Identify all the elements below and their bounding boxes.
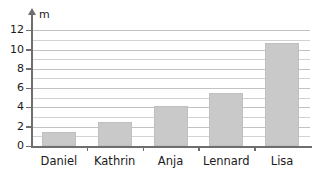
y-axis-tick-label-wrap: 0 — [0, 140, 24, 151]
x-axis-label-daniel: Daniel — [31, 155, 87, 168]
x-axis-label-kathrin: Kathrin — [87, 155, 143, 168]
bar-anja — [154, 106, 188, 146]
bar-lennard — [209, 93, 243, 146]
bar-lisa — [265, 43, 299, 146]
y-axis-tick — [26, 68, 32, 70]
x-axis-line — [31, 146, 312, 148]
gridline — [31, 40, 310, 41]
y-axis-tick-label-wrap: 12 — [0, 24, 24, 35]
y-axis-tick — [26, 126, 32, 128]
bar-kathrin — [98, 122, 132, 146]
y-axis-tick-label: 10 — [2, 44, 24, 55]
x-axis-label-anja: Anja — [143, 155, 199, 168]
y-axis-tick-label-wrap: 6 — [0, 82, 24, 93]
y-axis-tick-label-wrap: 4 — [0, 101, 24, 112]
gridline — [31, 30, 310, 31]
y-axis-tick — [26, 88, 32, 90]
y-axis-tick-label: 4 — [2, 101, 24, 112]
y-axis-tick-label: 6 — [2, 82, 24, 93]
x-axis-label-lisa: Lisa — [254, 155, 310, 168]
bar-daniel — [42, 132, 76, 146]
y-axis-tick — [26, 107, 32, 109]
y-axis-tick — [26, 49, 32, 51]
y-axis-arrow-icon — [28, 8, 36, 15]
y-axis-tick-label: 12 — [2, 24, 24, 35]
y-axis-tick-label: 8 — [2, 63, 24, 74]
y-axis-unit-label: m — [39, 9, 50, 20]
x-axis-tick — [254, 146, 256, 151]
y-axis-tick-label-wrap: 8 — [0, 63, 24, 74]
x-axis-tick — [198, 146, 200, 151]
bar-chart: m 024681012 DanielKathrinAnjaLennardLisa — [0, 0, 317, 187]
y-axis-tick — [26, 30, 32, 32]
y-axis-tick-label: 0 — [2, 140, 24, 151]
x-axis-tick — [87, 146, 89, 151]
y-axis-tick — [26, 146, 32, 148]
y-axis-tick-label: 2 — [2, 121, 24, 132]
x-axis-tick — [143, 146, 145, 151]
y-axis-tick-label-wrap: 10 — [0, 44, 24, 55]
y-axis-tick-label-wrap: 2 — [0, 121, 24, 132]
x-axis-label-lennard: Lennard — [198, 155, 254, 168]
